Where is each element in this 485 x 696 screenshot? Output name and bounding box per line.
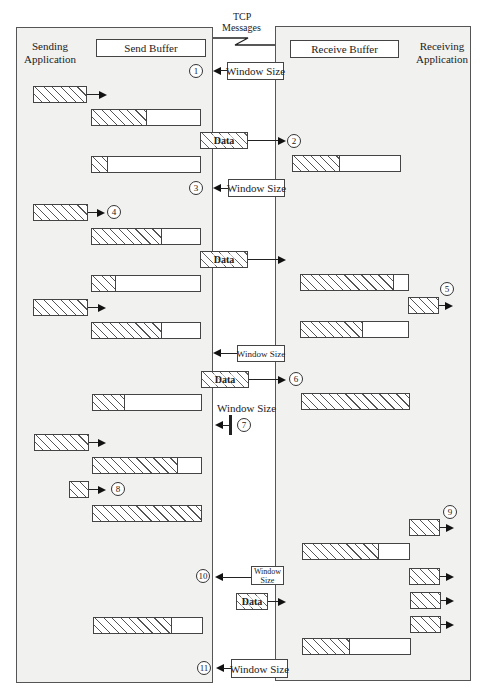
arrow-line [87, 94, 99, 95]
receive-buffer-state [302, 543, 410, 560]
receiving-label-line1: Receiving [414, 40, 470, 53]
send-buffer-state [91, 156, 201, 173]
receive-buffer-state [300, 274, 409, 291]
arrow-right-icon [97, 209, 105, 217]
size-label: Size [261, 576, 275, 585]
send-buffer-label: Send Buffer [96, 39, 206, 57]
data-message-2: Data [200, 251, 248, 268]
arrow-line [268, 601, 278, 602]
data-label: Data [213, 254, 236, 265]
step-11-marker: 11 [197, 661, 211, 675]
send-buffer-state [92, 505, 202, 522]
arrow-line [89, 442, 98, 443]
send-buffer-state [92, 457, 202, 474]
step-7-marker: 7 [237, 418, 251, 432]
app-data-segment [69, 481, 89, 498]
arrow-right-icon [446, 597, 454, 605]
app-read-segment [408, 297, 439, 314]
app-read-segment [409, 519, 440, 536]
receive-buffer-state [300, 321, 409, 338]
app-read-segment [410, 616, 441, 633]
send-buffer-state [91, 228, 201, 245]
step-4-marker: 4 [107, 205, 121, 219]
data-message-4: Data [236, 593, 268, 610]
arrow-line [248, 140, 278, 141]
sending-application-label: Sending Application [22, 40, 78, 66]
arrow-line [249, 379, 278, 380]
data-message-1: Data [200, 132, 248, 149]
window-label: Window [254, 567, 281, 576]
data-label: Data [241, 596, 264, 607]
window-size-message-3: Window Size [228, 179, 285, 197]
step-5-marker: 5 [440, 282, 454, 296]
arrow-line [248, 259, 278, 260]
step-6-marker: 6 [289, 372, 303, 386]
receiving-application-panel [275, 26, 471, 681]
tcp-link-icon [210, 34, 280, 48]
app-data-segment [33, 86, 87, 103]
step-1-marker: 1 [189, 64, 203, 78]
receive-buffer-state [301, 393, 410, 410]
step-9-marker: 9 [443, 505, 457, 519]
arrow-right-icon [446, 524, 454, 532]
data-label: Data [214, 374, 237, 385]
step-10-marker: 10 [196, 569, 210, 583]
receive-buffer-state [302, 638, 411, 655]
data-label: Data [213, 135, 236, 146]
data-message-3: Data [201, 371, 249, 388]
send-buffer-state [91, 109, 201, 126]
sending-label-line2: Application [22, 53, 78, 66]
window-size-message-small: Window Size [237, 345, 285, 362]
arrow-line [88, 212, 97, 213]
app-data-segment [33, 204, 88, 221]
send-buffer-state [93, 617, 203, 634]
arrow-line [222, 577, 252, 578]
app-data-segment [34, 434, 89, 451]
tcp-label-line2: Messages [222, 22, 261, 33]
tcp-label-line1: TCP [233, 11, 251, 22]
step-2-marker: 2 [287, 134, 301, 148]
blocked-bar [229, 415, 232, 435]
send-buffer-state [92, 394, 202, 411]
send-buffer-state [91, 322, 201, 339]
arrow-right-icon [98, 304, 106, 312]
arrow-right-icon [98, 486, 106, 494]
arrow-right-icon [278, 137, 286, 145]
receiving-application-label: Receiving Application [414, 40, 470, 66]
window-size-message-11: Window Size [231, 659, 288, 678]
app-read-segment [409, 568, 440, 585]
arrow-right-icon [99, 91, 107, 99]
receive-buffer-label: Receive Buffer [290, 40, 399, 58]
arrow-right-icon [278, 376, 286, 384]
app-data-segment [33, 299, 88, 316]
arrow-right-icon [98, 439, 106, 447]
arrow-line [89, 489, 98, 490]
arrow-line [220, 353, 238, 354]
arrow-line [88, 307, 98, 308]
arrow-right-icon [278, 598, 286, 606]
sending-label-line1: Sending [22, 40, 78, 53]
send-buffer-state [91, 275, 201, 292]
step-3-marker: 3 [189, 181, 203, 195]
window-size-zero-label: Window Size [217, 402, 276, 414]
window-size-message-1: Window Size [227, 62, 284, 80]
receiving-label-line2: Application [414, 53, 470, 66]
arrow-right-icon [446, 573, 454, 581]
receive-buffer-state [292, 155, 401, 172]
arrow-right-icon [445, 302, 453, 310]
arrow-right-icon [446, 621, 454, 629]
app-read-segment [410, 592, 441, 609]
step-8-marker: 8 [111, 482, 125, 496]
arrow-right-icon [278, 256, 286, 264]
window-size-message-10: Window Size [251, 566, 284, 585]
